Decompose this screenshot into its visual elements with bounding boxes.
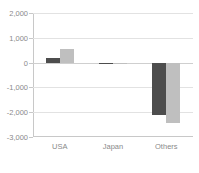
y-axis-line [33, 13, 34, 137]
bar-usa-series-2 [60, 49, 74, 63]
y-axis-tick [29, 87, 33, 88]
bar-others-series-1 [152, 63, 166, 115]
bar-chart: 2,000 1,000 0 -1,000 -2,000 -3,000 USA J… [0, 0, 199, 173]
y-axis-tick [29, 112, 33, 113]
y-axis-tick [29, 137, 33, 138]
gridline [33, 38, 193, 39]
bar-usa-series-1 [46, 58, 60, 62]
y-tick-label: -2,000 [7, 108, 28, 117]
bar-japan-series-1 [99, 63, 113, 64]
y-axis-tick [29, 13, 33, 14]
x-axis-line [33, 136, 193, 137]
y-axis-tick-labels: 2,000 1,000 0 -1,000 -2,000 -3,000 [0, 13, 31, 137]
y-tick-label: 1,000 [9, 33, 28, 42]
bar-others-series-2 [166, 63, 180, 124]
gridline [33, 13, 193, 14]
y-tick-label: -3,000 [7, 133, 28, 142]
x-tick-label-usa: USA [52, 142, 67, 151]
plot-area [33, 13, 193, 137]
x-tick-label-japan: Japan [103, 142, 123, 151]
y-axis-tick [29, 63, 33, 64]
y-tick-label: 2,000 [9, 9, 28, 18]
bar-japan-series-2 [113, 63, 127, 64]
y-tick-label: -1,000 [7, 83, 28, 92]
y-axis-tick [29, 38, 33, 39]
y-tick-label: 0 [24, 58, 28, 67]
x-axis-category-labels: USA Japan Others [33, 142, 193, 156]
x-tick-label-others: Others [155, 142, 178, 151]
